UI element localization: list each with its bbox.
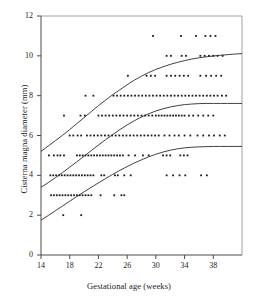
scatter-point bbox=[192, 95, 194, 97]
scatter-point bbox=[152, 35, 154, 37]
scatter-point bbox=[90, 174, 92, 176]
scatter-point bbox=[172, 174, 174, 176]
scatter-point bbox=[183, 155, 185, 157]
scatter-point bbox=[80, 135, 82, 137]
scatter-point bbox=[188, 115, 190, 117]
scatter-point bbox=[170, 95, 172, 97]
scatter-point bbox=[225, 95, 227, 97]
y-tick-label: 6 bbox=[11, 131, 33, 140]
scatter-point bbox=[179, 75, 181, 77]
scatter-point bbox=[97, 135, 99, 137]
scatter-point bbox=[150, 75, 152, 77]
scatter-point bbox=[122, 135, 124, 137]
scatter-point bbox=[49, 174, 51, 176]
scatter-point bbox=[104, 135, 106, 137]
scatter-point bbox=[151, 115, 153, 117]
scatter-point bbox=[69, 135, 71, 137]
x-tick-label: 26 bbox=[115, 261, 139, 270]
scatter-point bbox=[129, 135, 131, 137]
x-tick-label: 18 bbox=[58, 261, 82, 270]
scatter-point bbox=[80, 115, 82, 117]
cisterna-magna-scatter-chart: Cisterna magna diameter (mm) Gestational… bbox=[0, 0, 258, 304]
scatter-point bbox=[113, 194, 115, 196]
scatter-point bbox=[166, 75, 168, 77]
scatter-point bbox=[195, 95, 197, 97]
scatter-point bbox=[154, 75, 156, 77]
scatter-point bbox=[81, 174, 83, 176]
scatter-point bbox=[219, 135, 221, 137]
scatter-point bbox=[149, 95, 151, 97]
scatter-point bbox=[174, 75, 176, 77]
scatter-point bbox=[99, 155, 101, 157]
scatter-point bbox=[184, 95, 186, 97]
scatter-point bbox=[98, 115, 100, 117]
scatter-point bbox=[137, 115, 139, 117]
scatter-point bbox=[93, 135, 95, 137]
scatter-point bbox=[154, 135, 156, 137]
scatter-point bbox=[59, 194, 61, 196]
y-tick-label: 0 bbox=[11, 250, 33, 259]
scatter-point bbox=[53, 155, 55, 157]
scatter-point bbox=[96, 155, 98, 157]
scatter-point bbox=[206, 174, 208, 176]
scatter-point bbox=[199, 95, 201, 97]
scatter-point bbox=[213, 135, 215, 137]
scatter-point bbox=[85, 95, 87, 97]
scatter-point bbox=[134, 155, 136, 157]
scatter-point bbox=[130, 174, 132, 176]
scatter-point bbox=[119, 115, 121, 117]
x-tick-label: 30 bbox=[144, 261, 168, 270]
scatter-point bbox=[166, 155, 168, 157]
scatter-point bbox=[163, 95, 165, 97]
scatter-point bbox=[105, 115, 107, 117]
scatter-point bbox=[130, 115, 132, 117]
scatter-point bbox=[210, 75, 212, 77]
scatter-point bbox=[192, 115, 194, 117]
scatter-point bbox=[188, 95, 190, 97]
x-tick-label: 34 bbox=[173, 261, 197, 270]
scatter-point bbox=[166, 95, 168, 97]
scatter-point bbox=[123, 95, 125, 97]
y-tick-marks bbox=[37, 16, 41, 255]
scatter-point bbox=[169, 155, 171, 157]
scatter-point bbox=[202, 135, 204, 137]
scatter-point bbox=[212, 115, 214, 117]
scatter-point bbox=[217, 95, 219, 97]
scatter-point bbox=[70, 174, 72, 176]
scatter-point bbox=[161, 115, 163, 117]
x-tick-marks bbox=[41, 255, 213, 259]
scatter-point bbox=[116, 95, 118, 97]
scatter-point bbox=[102, 155, 104, 157]
scatter-point bbox=[65, 194, 67, 196]
scatter-point bbox=[72, 174, 74, 176]
scatter-point bbox=[50, 194, 52, 196]
scatter-point bbox=[208, 135, 210, 137]
scatter-point bbox=[77, 135, 79, 137]
scatter-point bbox=[207, 115, 209, 117]
scatter-point bbox=[100, 174, 102, 176]
x-tick-label: 22 bbox=[86, 261, 110, 270]
scatter-point bbox=[101, 115, 103, 117]
scatter-point bbox=[64, 174, 66, 176]
scatter-point bbox=[133, 135, 135, 137]
scatter-point bbox=[179, 155, 181, 157]
scatter-point bbox=[205, 75, 207, 77]
scatter-point bbox=[221, 95, 223, 97]
scatter-point bbox=[113, 155, 115, 157]
scatter-point bbox=[118, 135, 120, 137]
scatter-point bbox=[170, 75, 172, 77]
y-tick-label: 4 bbox=[11, 170, 33, 179]
scatter-point bbox=[147, 135, 149, 137]
scatter-point bbox=[152, 95, 154, 97]
scatter-point bbox=[123, 115, 125, 117]
scatter-point bbox=[70, 194, 72, 196]
scatter-point bbox=[178, 135, 180, 137]
scatter-point bbox=[55, 174, 57, 176]
scatter-point bbox=[57, 155, 59, 157]
scatter-point bbox=[72, 135, 74, 137]
scatter-point bbox=[210, 95, 212, 97]
scatter-point bbox=[224, 135, 226, 137]
scatter-point bbox=[115, 115, 117, 117]
scatter-point bbox=[181, 55, 183, 57]
scatter-point bbox=[158, 135, 160, 137]
